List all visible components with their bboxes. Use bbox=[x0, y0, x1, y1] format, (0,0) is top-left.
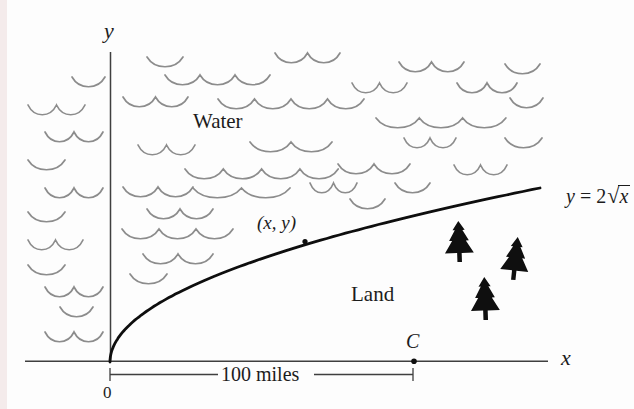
wave-icon bbox=[350, 199, 385, 209]
figure-canvas bbox=[0, 0, 634, 409]
wave-icon bbox=[250, 142, 332, 152]
wave-icon bbox=[338, 164, 410, 174]
wave-icon bbox=[510, 98, 543, 108]
water-label: Water bbox=[193, 111, 243, 132]
equation-lhs: y bbox=[566, 185, 575, 207]
wave-icon bbox=[457, 83, 517, 93]
y-axis-label: y bbox=[104, 20, 114, 42]
curve-equation: y=2√x bbox=[546, 165, 630, 227]
origin-label: 0 bbox=[103, 384, 112, 401]
distance-label: 100 miles bbox=[221, 364, 299, 384]
wave-icon bbox=[505, 138, 542, 148]
wave-icon bbox=[45, 287, 103, 297]
wave-icon bbox=[72, 77, 105, 87]
wave-icon bbox=[352, 83, 407, 93]
wave-icon bbox=[130, 274, 167, 284]
wave-icon bbox=[395, 183, 430, 193]
wave-icon bbox=[122, 229, 233, 239]
wave-icon bbox=[185, 169, 338, 179]
wave-icon bbox=[28, 240, 83, 250]
scan-edge-artifact bbox=[0, 0, 7, 409]
wave-icon bbox=[28, 105, 85, 115]
wave-icon bbox=[123, 187, 193, 197]
pine-tree-icon bbox=[470, 277, 500, 321]
coastline-curve bbox=[110, 188, 540, 362]
wave-icon bbox=[165, 75, 270, 85]
wave-icon bbox=[45, 332, 103, 342]
textbook-figure: y Water (x, y) Land C x 100 miles 0 y=2√… bbox=[0, 0, 634, 409]
curve-point-label: (x, y) bbox=[257, 213, 296, 232]
c-point-label: C bbox=[406, 331, 419, 351]
wave-icon bbox=[310, 183, 357, 193]
wave-icon bbox=[143, 254, 213, 264]
wave-icon bbox=[138, 145, 195, 155]
c-point-dot bbox=[411, 358, 417, 364]
wave-icon bbox=[147, 57, 183, 67]
wave-icon bbox=[454, 165, 507, 175]
wave-icon bbox=[505, 64, 540, 74]
wave-icon bbox=[147, 209, 213, 219]
wave-icon bbox=[60, 307, 93, 317]
equation-radicand: x bbox=[618, 185, 630, 206]
wave-icon bbox=[193, 188, 290, 198]
equation-coefficient: 2 bbox=[596, 185, 606, 207]
pine-tree-icon bbox=[499, 236, 531, 282]
land-label: Land bbox=[351, 284, 394, 305]
wave-icon bbox=[218, 99, 364, 109]
wave-icon bbox=[123, 97, 188, 107]
wave-icon bbox=[376, 118, 506, 128]
wave-icon bbox=[275, 53, 340, 63]
wave-icon bbox=[45, 132, 103, 142]
wave-icon bbox=[45, 188, 103, 198]
wave-icon bbox=[28, 160, 65, 170]
wave-icon bbox=[28, 265, 65, 275]
wave-icon bbox=[404, 138, 456, 148]
wave-icon bbox=[28, 212, 65, 222]
x-axis-label: x bbox=[561, 347, 571, 369]
wave-icon bbox=[399, 62, 464, 72]
equation-equals: = bbox=[580, 185, 591, 207]
curve-point-dot bbox=[302, 239, 307, 244]
pine-tree-icon bbox=[444, 221, 474, 263]
